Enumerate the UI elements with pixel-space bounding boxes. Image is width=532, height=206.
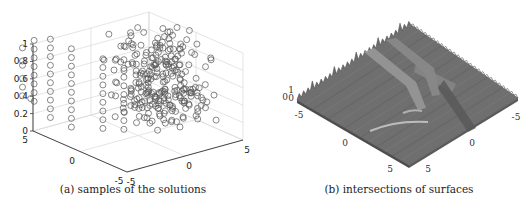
data-point [47, 62, 53, 68]
data-point [164, 77, 170, 83]
data-point [112, 114, 118, 120]
data-point [172, 88, 178, 94]
data-point [31, 37, 37, 43]
data-point [31, 46, 37, 52]
data-point [111, 67, 117, 73]
data-point [211, 92, 217, 98]
data-point [171, 46, 177, 52]
data-point [106, 31, 112, 37]
data-point [68, 55, 74, 61]
data-point [100, 82, 106, 88]
data-point [161, 117, 167, 123]
data-point [47, 80, 53, 86]
data-point [194, 41, 200, 47]
data-point [68, 124, 74, 130]
data-point [196, 85, 202, 91]
y-tick-label: 5 [22, 135, 28, 145]
data-point [31, 55, 37, 61]
surface-group: 010-50550-5 [282, 21, 520, 174]
data-point [136, 95, 142, 101]
data-point [134, 51, 140, 57]
data-point [135, 25, 141, 31]
data-point [138, 42, 144, 48]
x-tick-label: 5 [387, 164, 393, 174]
data-point [132, 52, 138, 58]
y-axis-line [33, 131, 127, 172]
data-point [100, 65, 106, 71]
data-point [204, 99, 210, 105]
data-point [177, 124, 183, 130]
data-point [133, 61, 139, 67]
data-point [31, 90, 37, 96]
data-point [128, 91, 134, 97]
z-tick-label: 0 [288, 93, 294, 103]
data-point [202, 82, 208, 88]
panel-a-scatter3d: 00.20.40.60.8150-5-505 (a) samples of th… [0, 0, 266, 206]
data-point [100, 99, 106, 105]
z-tick-label: 0.2 [14, 109, 28, 119]
data-point [213, 117, 219, 123]
x-tick-label: 5 [244, 145, 250, 155]
data-point [31, 72, 37, 78]
data-point [184, 37, 190, 43]
data-point [47, 115, 53, 121]
surface3d-plot: 010-50550-5 [266, 0, 532, 206]
data-point [141, 29, 147, 35]
x-axis-line [127, 140, 243, 172]
data-point [167, 46, 173, 52]
data-point [108, 92, 114, 98]
caption-b: (b) intersections of surfaces [266, 183, 532, 195]
y-tick-label: 5 [425, 164, 431, 174]
z-tick-label: 0.4 [14, 91, 29, 101]
y-tick-label: -5 [512, 112, 521, 122]
z-tick-label: 0.6 [14, 74, 29, 84]
data-point [31, 64, 37, 70]
data-point [121, 118, 127, 124]
data-point [134, 120, 140, 126]
data-point [136, 105, 142, 111]
data-point [183, 105, 189, 111]
data-point [168, 53, 174, 59]
surface-base [297, 25, 518, 165]
data-point [68, 89, 74, 95]
data-point [203, 64, 209, 70]
x-tick-label: 0 [342, 138, 348, 148]
data-point [121, 74, 127, 80]
data-point [100, 125, 106, 131]
data-point [20, 84, 26, 90]
data-point [68, 107, 74, 113]
y-tick-label: 0 [69, 156, 75, 166]
panel-b-surface3d: 010-50550-5 (b) intersections of surface… [266, 0, 532, 206]
data-point [174, 25, 180, 31]
data-point [121, 83, 127, 89]
data-point [162, 120, 168, 126]
data-point [31, 81, 37, 87]
z-tick-label: 0.8 [14, 56, 29, 66]
data-point [47, 45, 53, 51]
x-tick-label: -5 [295, 110, 304, 120]
data-point [121, 109, 127, 115]
data-point [100, 117, 106, 123]
data-point [113, 93, 119, 99]
x-tick-label: 0 [186, 161, 192, 171]
data-point [47, 97, 53, 103]
caption-a: (a) samples of the solutions [0, 183, 266, 195]
y-tick-label: 0 [469, 138, 475, 148]
data-point [68, 72, 74, 78]
data-point [155, 35, 161, 41]
scatter3d-plot: 00.20.40.60.8150-5-505 [0, 0, 266, 206]
